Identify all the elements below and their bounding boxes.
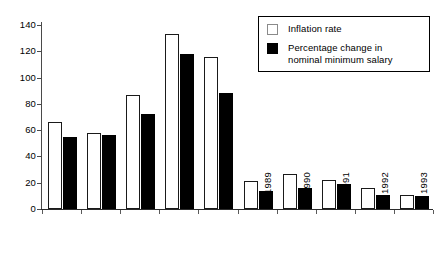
x-axis-tick-mark [198,210,199,214]
bar [322,180,336,209]
x-axis-tick-mark [120,210,121,214]
bar [361,188,375,209]
y-axis-tick-label: 100 [10,73,36,83]
x-axis-label: 1990 [302,172,312,216]
x-axis-label: 1986 [146,172,156,216]
legend-label: Inflation rate [288,23,342,35]
legend-item-salary-change: Percentage change innominal minimum sala… [267,42,422,65]
x-axis-tick-mark [316,210,317,214]
x-axis-tick-mark [277,210,278,214]
x-axis-tick-mark [433,210,434,214]
black-square-icon [267,43,278,54]
legend-item-inflation-rate: Inflation rate [267,23,422,35]
bar [204,57,218,209]
y-axis-tick-label: 0 [10,204,36,214]
x-axis-label: 1992 [380,172,390,216]
x-axis-label: 1987 [185,172,195,216]
x-axis-label: 1993 [419,172,429,216]
x-axis-label: 1984 [68,172,78,216]
x-axis-tick-mark [159,210,160,214]
x-axis-label: 1985 [107,172,117,216]
y-axis-tick-label: 140 [10,20,36,30]
x-axis-label: 1989 [263,172,273,216]
x-axis-label: 1988 [224,172,234,216]
y-axis-tick-label: 20 [10,178,36,188]
bar [87,133,101,209]
bar [244,181,258,209]
bar [165,34,179,209]
x-axis-tick-mark [81,210,82,214]
chart-legend: Inflation rate Percentage change innomin… [258,16,430,72]
bar-chart: 020406080100120140 198419851986198719881… [0,0,437,266]
y-axis-tick-label: 120 [10,46,36,56]
bar [126,95,140,209]
white-square-icon [267,24,278,35]
y-axis-tick-label: 40 [10,151,36,161]
bar [48,122,62,209]
legend-label: Percentage change innominal minimum sala… [288,42,393,65]
x-axis-tick-mark [42,210,43,214]
y-axis-tick-label: 80 [10,99,36,109]
x-axis-tick-mark [355,210,356,214]
x-axis-label: 1991 [341,172,351,216]
x-axis-tick-mark [238,210,239,214]
bar [283,174,297,209]
x-axis-tick-mark [394,210,395,214]
y-axis-tick-label: 60 [10,125,36,135]
bar [400,195,414,209]
